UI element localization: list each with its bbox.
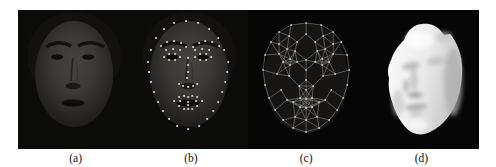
figure-strip	[18, 10, 479, 149]
panel-c-mesh	[249, 10, 364, 149]
figure-3d-face-reconstruction: (a) (b) (c) (d)	[0, 0, 496, 167]
panel-a-original-face	[18, 10, 133, 149]
label-a: (a)	[18, 149, 133, 167]
label-c: (c)	[249, 149, 364, 167]
label-d: (d)	[364, 149, 479, 167]
original-face-image	[18, 10, 133, 149]
panel-d-3d-model	[364, 10, 479, 149]
landmarks-face-image	[133, 10, 248, 149]
label-b: (b)	[133, 149, 248, 167]
panel-b-landmarks	[133, 10, 248, 149]
face-mesh-image	[249, 10, 364, 149]
caption-labels: (a) (b) (c) (d)	[18, 148, 479, 167]
face-3d-model-image	[364, 10, 479, 149]
